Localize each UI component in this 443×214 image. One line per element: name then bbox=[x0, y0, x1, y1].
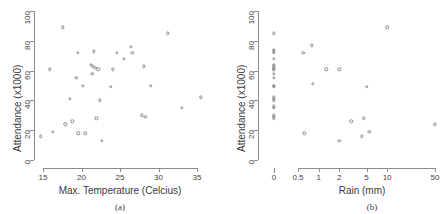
data-point bbox=[77, 131, 80, 134]
data-point bbox=[272, 117, 275, 120]
data-point bbox=[272, 85, 275, 88]
data-point bbox=[180, 106, 183, 109]
x-tick-label-b: 5 bbox=[364, 174, 368, 182]
data-point bbox=[111, 67, 114, 70]
data-point bbox=[100, 139, 103, 142]
y-tick-label-b: 100 bbox=[248, 11, 256, 24]
data-point bbox=[303, 131, 306, 134]
x-tick-label-b: 0.5 bbox=[292, 174, 303, 182]
panel-b-rain-scatter: 02040608010000.51251050 Attendance (x100… bbox=[222, 0, 443, 214]
x-tick-a bbox=[43, 168, 44, 172]
y-tick-label-b: 40 bbox=[248, 100, 256, 109]
data-point bbox=[199, 96, 202, 99]
data-point bbox=[92, 50, 95, 53]
x-tick-b bbox=[298, 168, 299, 172]
data-point bbox=[129, 45, 132, 48]
y-tick-label-b: 0 bbox=[248, 160, 256, 164]
data-point bbox=[272, 99, 275, 102]
plot-area-b: 02040608010000.51251050 bbox=[222, 0, 443, 214]
y-tick-label-a: 60 bbox=[24, 71, 32, 80]
panel-caption-b: (b) bbox=[367, 202, 378, 212]
data-point bbox=[61, 26, 64, 29]
data-point bbox=[362, 117, 365, 120]
data-point bbox=[91, 72, 94, 75]
x-tick-label-a: 35 bbox=[193, 174, 202, 182]
data-point bbox=[131, 51, 134, 54]
data-point bbox=[76, 51, 79, 54]
x-tick-label-b: 2 bbox=[337, 174, 341, 182]
data-point bbox=[97, 67, 100, 70]
data-point bbox=[115, 51, 118, 54]
y-axis-line-a bbox=[34, 11, 35, 160]
panel-caption-a: (a) bbox=[115, 202, 125, 212]
y-tick-label-b: 80 bbox=[248, 41, 256, 50]
data-point bbox=[71, 120, 74, 123]
data-point bbox=[302, 51, 305, 54]
y-tick-label-a: 0 bbox=[24, 160, 32, 164]
x-tick-a bbox=[197, 168, 198, 172]
y-tick-label-b: 20 bbox=[248, 130, 256, 139]
x-tick-label-a: 25 bbox=[116, 174, 125, 182]
y-axis-line-b bbox=[258, 11, 259, 160]
figure-two-scatterplots: 0204060801001520253035 Attendance (x1000… bbox=[0, 0, 443, 214]
x-tick-b bbox=[319, 168, 320, 172]
x-tick-a bbox=[120, 168, 121, 172]
data-point bbox=[144, 115, 147, 118]
data-point bbox=[68, 97, 71, 100]
x-tick-label-b: 1 bbox=[316, 174, 320, 182]
data-point bbox=[433, 123, 436, 126]
y-tick-label-a: 100 bbox=[24, 11, 32, 24]
data-point bbox=[48, 67, 51, 70]
x-tick-b bbox=[339, 168, 340, 172]
x-tick-a bbox=[82, 168, 83, 172]
data-point bbox=[64, 123, 67, 126]
data-point bbox=[142, 64, 145, 67]
panel-a-temperature-scatter: 0204060801001520253035 Attendance (x1000… bbox=[0, 0, 222, 214]
data-point bbox=[149, 84, 152, 87]
data-point bbox=[338, 67, 341, 70]
x-axis-title-b: Rain (mm) bbox=[339, 185, 386, 196]
data-point bbox=[122, 57, 125, 60]
x-tick-a bbox=[159, 168, 160, 172]
data-point bbox=[310, 44, 313, 47]
data-point bbox=[360, 134, 363, 137]
x-tick-b bbox=[387, 168, 388, 172]
x-tick-label-a: 15 bbox=[39, 174, 48, 182]
data-point bbox=[39, 134, 42, 137]
data-point bbox=[338, 139, 341, 142]
x-tick-label-b: 50 bbox=[431, 174, 440, 182]
data-point bbox=[350, 120, 353, 123]
data-point bbox=[94, 117, 97, 120]
data-point bbox=[368, 130, 371, 133]
y-tick-label-b: 60 bbox=[248, 71, 256, 80]
y-axis-title-a: Attendance (x1000) bbox=[12, 65, 23, 152]
data-point bbox=[272, 72, 275, 75]
x-tick-label-a: 30 bbox=[154, 174, 163, 182]
y-tick-label-a: 80 bbox=[24, 41, 32, 50]
x-tick-b bbox=[367, 168, 368, 172]
data-point bbox=[272, 32, 275, 35]
plot-area-a: 0204060801001520253035 bbox=[0, 0, 222, 214]
data-point bbox=[109, 85, 112, 88]
data-point bbox=[325, 67, 328, 70]
data-point bbox=[81, 84, 84, 87]
data-point bbox=[84, 131, 87, 134]
y-tick-label-a: 20 bbox=[24, 130, 32, 139]
y-tick-label-a: 40 bbox=[24, 100, 32, 109]
data-point bbox=[166, 32, 169, 35]
data-point bbox=[272, 51, 275, 54]
data-point bbox=[74, 76, 77, 79]
x-tick-label-b: 10 bbox=[383, 174, 392, 182]
data-point bbox=[385, 26, 388, 29]
x-axis-title-a: Max. Temperature (Celcius) bbox=[59, 185, 182, 196]
data-point bbox=[365, 85, 368, 88]
x-tick-b bbox=[435, 168, 436, 172]
x-tick-label-a: 20 bbox=[77, 174, 86, 182]
y-axis-title-b: Attendance (x1000) bbox=[236, 65, 247, 152]
data-point bbox=[272, 67, 275, 70]
data-point bbox=[98, 99, 101, 102]
data-point bbox=[272, 57, 275, 60]
data-point bbox=[311, 82, 314, 85]
data-point bbox=[272, 106, 275, 109]
data-point bbox=[272, 76, 275, 79]
